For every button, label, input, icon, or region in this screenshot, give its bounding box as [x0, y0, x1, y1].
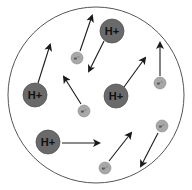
electron-label: e⁻: [159, 123, 165, 129]
electron-label: e⁻: [74, 55, 80, 61]
electron: e⁻: [71, 52, 83, 64]
ion-label: H+: [41, 136, 55, 148]
ion-arrow-icon: [89, 41, 104, 71]
electron: e⁻: [156, 120, 168, 132]
plasma-diagram: H+H+H+H+ e⁻e⁻e⁻e⁻e⁻: [0, 0, 192, 190]
electron-arrow-icon: [141, 133, 158, 166]
electron: e⁻: [99, 162, 111, 174]
hydrogen-ion: H+: [36, 130, 60, 154]
ion-arrow-icon: [38, 45, 50, 83]
electron-arrow-icon: [80, 16, 92, 51]
hydrogen-ion: H+: [104, 84, 128, 108]
hydrogen-ions: H+H+H+H+: [23, 19, 128, 154]
ion-label: H+: [109, 90, 123, 102]
ion-arrow-icon: [124, 58, 145, 87]
electron-label: e⁻: [157, 80, 163, 86]
ion-label: H+: [105, 25, 119, 37]
electrons: e⁻e⁻e⁻e⁻e⁻: [71, 52, 168, 174]
hydrogen-ion: H+: [23, 83, 47, 107]
electron: e⁻: [154, 77, 166, 89]
ion-label: H+: [28, 89, 42, 101]
electron-arrow-icon: [64, 77, 81, 104]
electron-arrow-icon: [109, 133, 131, 161]
electron: e⁻: [78, 105, 90, 117]
hydrogen-ion: H+: [100, 19, 124, 43]
electron-label: e⁻: [81, 108, 87, 114]
electron-label: e⁻: [102, 165, 108, 171]
